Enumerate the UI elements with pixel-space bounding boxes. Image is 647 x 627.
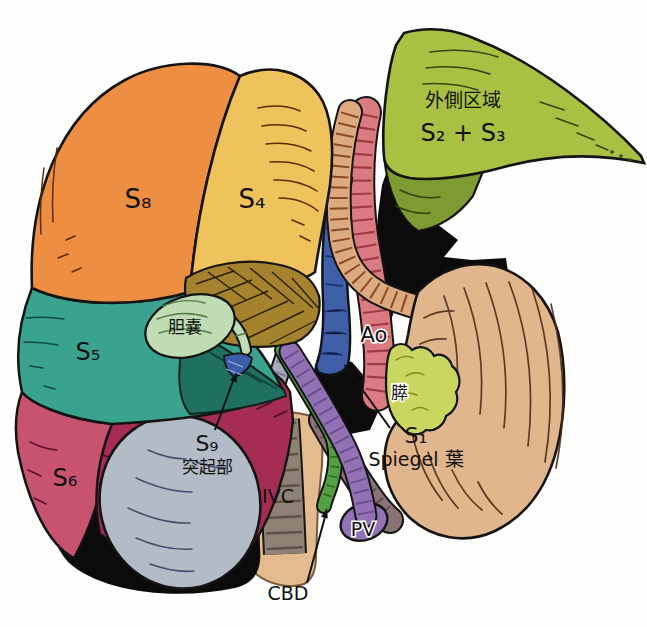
label-pv: PV — [351, 518, 375, 540]
label-aorta: Ao — [361, 323, 388, 347]
flap-face — [383, 29, 644, 179]
aorta-tube — [359, 112, 379, 396]
label-cbd: CBD — [268, 582, 309, 604]
label-lateral-area: 外側区域 — [425, 89, 501, 111]
label-s1: S₁ — [405, 423, 428, 448]
label-ivc: IVC — [262, 485, 294, 507]
label-s9-sub: 突起部 — [182, 457, 233, 477]
diagram-canvas: S₈ S₄ 外側区域 S₂ + S₃ 胆嚢 Ao 膵 S₅ S₆ S₁ Spie… — [0, 0, 647, 627]
label-s2-s3: S₂ + S₃ — [420, 119, 505, 147]
label-gallbladder: 胆嚢 — [168, 317, 202, 337]
label-s8: S₈ — [125, 184, 152, 214]
label-s6: S₆ — [53, 464, 78, 492]
label-s5: S₅ — [76, 338, 101, 366]
label-pancreas: 膵 — [391, 383, 408, 403]
label-spiegel: Spiegel 葉 — [368, 448, 463, 470]
label-s9: S₉ — [196, 431, 219, 456]
liver-segment-diagram: S₈ S₄ 外側区域 S₂ + S₃ 胆嚢 Ao 膵 S₅ S₆ S₁ Spie… — [0, 0, 647, 627]
label-s4: S₄ — [239, 184, 266, 214]
